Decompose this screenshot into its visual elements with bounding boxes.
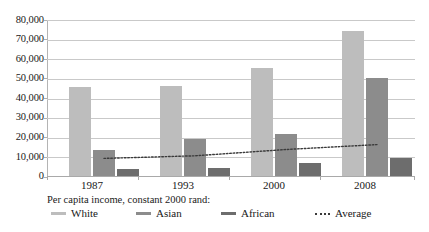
- legend-item-white[interactable]: White: [51, 208, 98, 219]
- bar-group-2000: [251, 20, 321, 176]
- bar-asian-2000: [275, 134, 297, 176]
- bar-asian-1987: [93, 150, 115, 176]
- average-dotted-line-icon: [315, 213, 330, 215]
- x-axis-tick-mark: [229, 177, 230, 180]
- y-axis-tick-label: 40,000: [0, 93, 44, 104]
- plot-area: [47, 20, 415, 177]
- bar-group-2008: [342, 20, 412, 176]
- y-axis-tick-label: 0: [0, 171, 44, 182]
- y-axis-tick-label: 60,000: [0, 54, 44, 65]
- white-swatch-icon: [51, 212, 66, 215]
- legend-label-white: White: [71, 208, 98, 219]
- bar-group-1993: [160, 20, 230, 176]
- bar-african-2000: [299, 163, 321, 176]
- bar-african-1993: [208, 168, 230, 176]
- african-swatch-icon: [221, 212, 236, 215]
- bar-white-2008: [342, 31, 364, 176]
- y-axis: 80,000 70,000 60,000 50,000 40,000 30,00…: [0, 0, 44, 232]
- legend-item-african[interactable]: African: [221, 208, 275, 219]
- legend-item-average[interactable]: Average: [315, 208, 371, 219]
- y-axis-tick-label: 20,000: [0, 132, 44, 143]
- asian-swatch-icon: [136, 212, 151, 215]
- y-axis-tick-label: 30,000: [0, 112, 44, 123]
- bar-african-2008: [390, 158, 412, 176]
- bar-white-2000: [251, 68, 273, 176]
- bar-african-1987: [117, 169, 139, 176]
- y-axis-tick-label: 10,000: [0, 152, 44, 163]
- x-axis-tick-mark: [320, 177, 321, 180]
- x-axis-label-2000: 2000: [251, 180, 297, 191]
- legend-item-asian[interactable]: Asian: [136, 208, 182, 219]
- legend-items: White Asian African Average: [47, 208, 427, 222]
- x-axis-label-2008: 2008: [342, 180, 388, 191]
- legend: Per capita income, constant 2000 rand: W…: [47, 194, 427, 222]
- x-axis-label-1993: 1993: [160, 180, 206, 191]
- bar-group-1987: [69, 20, 139, 176]
- chart-container: 80,000 70,000 60,000 50,000 40,000 30,00…: [0, 0, 429, 232]
- bar-white-1987: [69, 87, 91, 176]
- x-axis-label-1987: 1987: [69, 180, 115, 191]
- bar-asian-2008: [366, 78, 388, 176]
- x-axis-tick-mark: [47, 177, 48, 180]
- y-axis-tick-label: 80,000: [0, 15, 44, 26]
- legend-label-african: African: [241, 208, 275, 219]
- legend-label-asian: Asian: [156, 208, 182, 219]
- x-axis-line: [47, 176, 415, 177]
- y-axis-tick-label: 50,000: [0, 73, 44, 84]
- x-axis-tick-mark: [414, 177, 415, 180]
- bar-white-1993: [160, 86, 182, 176]
- x-axis-tick-mark: [138, 177, 139, 180]
- bar-asian-1993: [184, 139, 206, 176]
- y-axis-tick-label: 70,000: [0, 34, 44, 45]
- legend-label-average: Average: [335, 208, 371, 219]
- legend-title: Per capita income, constant 2000 rand:: [47, 194, 427, 206]
